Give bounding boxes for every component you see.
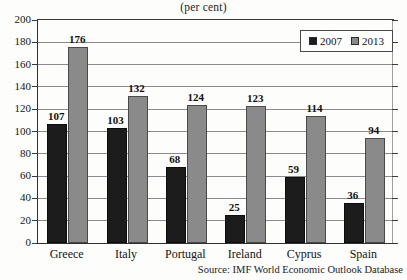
y-axis-label-100: 100 (1, 126, 31, 137)
legend-item-2013: 2013 (351, 36, 384, 47)
bar-value-spain-2013: 94 (360, 125, 388, 136)
bar-value-greece-2007: 107 (42, 111, 70, 122)
x-axis-label-cyprus: Cyprus (274, 248, 333, 261)
bar-value-ireland-2007: 25 (220, 202, 248, 213)
legend-item-2007: 2007 (309, 36, 342, 47)
bar-portugal-2013 (187, 105, 207, 243)
bar-chart-figure: (per cent) 020406080100120140160180200 1… (0, 0, 407, 280)
bar-ireland-2007 (225, 215, 245, 243)
y-axis-label-80: 80 (1, 148, 31, 159)
bar-value-greece-2013: 176 (63, 34, 91, 45)
y-axis-label-120: 120 (1, 103, 31, 114)
bar-value-cyprus-2007: 59 (280, 164, 308, 175)
bar-value-spain-2007: 36 (339, 190, 367, 201)
y-axis-label-160: 160 (1, 59, 31, 70)
legend-swatch-2007 (309, 37, 317, 45)
x-axis-label-greece: Greece (37, 248, 96, 261)
x-axis-label-ireland: Ireland (215, 248, 274, 261)
bar-value-portugal-2007: 68 (161, 154, 189, 165)
bar-italy-2007 (107, 128, 127, 243)
y-axis-label-200: 200 (1, 14, 31, 25)
bar-value-portugal-2013: 124 (182, 92, 210, 103)
y-axis-label-180: 180 (1, 36, 31, 47)
legend-label-2007: 2007 (320, 36, 342, 47)
chart-title: (per cent) (0, 1, 407, 13)
plot-area (37, 20, 394, 244)
x-axis-label-spain: Spain (334, 248, 393, 261)
bar-value-cyprus-2013: 114 (301, 103, 329, 114)
y-axis-label-20: 20 (1, 215, 31, 226)
bar-cyprus-2007 (285, 177, 305, 243)
bar-portugal-2007 (166, 167, 186, 243)
source-note: Source: IMF World Economic Outlook Datab… (198, 264, 403, 276)
bar-greece-2013 (68, 47, 88, 243)
y-axis-label-0: 0 (1, 237, 31, 248)
legend-label-2013: 2013 (362, 36, 384, 47)
bar-value-italy-2013: 132 (123, 83, 151, 94)
x-axis-label-italy: Italy (96, 248, 155, 261)
x-axis-label-portugal: Portugal (156, 248, 215, 261)
bar-cyprus-2013 (306, 116, 326, 243)
bar-italy-2013 (128, 96, 148, 243)
bar-value-ireland-2013: 123 (241, 93, 269, 104)
bar-spain-2007 (344, 203, 364, 243)
y-axis-label-60: 60 (1, 170, 31, 181)
y-axis-label-140: 140 (1, 81, 31, 92)
chart-legend: 20072013 (300, 30, 393, 52)
legend-swatch-2013 (351, 37, 359, 45)
bar-value-italy-2007: 103 (102, 115, 130, 126)
y-axis-label-40: 40 (1, 192, 31, 203)
bar-ireland-2013 (246, 106, 266, 243)
bar-spain-2013 (365, 138, 385, 243)
bar-greece-2007 (47, 124, 67, 243)
